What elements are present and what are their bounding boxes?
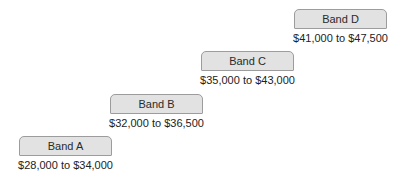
band-d: Band D $41,000 to $47,500 <box>294 9 387 44</box>
band-c-label: Band C <box>229 55 266 67</box>
band-d-range: $41,000 to $47,500 <box>284 32 397 44</box>
band-c: Band C $35,000 to $43,000 <box>201 51 294 86</box>
band-c-range: $35,000 to $43,000 <box>191 74 304 86</box>
band-a-box: Band A <box>19 136 112 156</box>
band-d-label: Band D <box>322 13 359 25</box>
band-b: Band B $32,000 to $36,500 <box>110 94 203 129</box>
band-a-range: $28,000 to $34,000 <box>9 159 122 171</box>
band-d-box: Band D <box>294 9 387 29</box>
band-b-label: Band B <box>138 98 174 110</box>
band-b-box: Band B <box>110 94 203 114</box>
band-a: Band A $28,000 to $34,000 <box>19 136 112 171</box>
band-c-box: Band C <box>201 51 294 71</box>
band-a-label: Band A <box>48 140 83 152</box>
band-b-range: $32,000 to $36,500 <box>100 117 213 129</box>
